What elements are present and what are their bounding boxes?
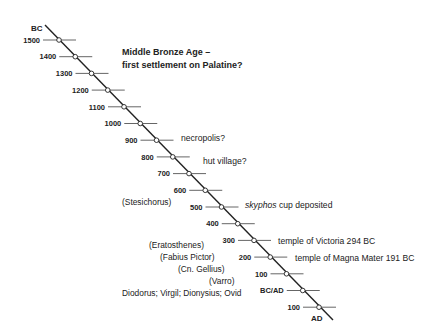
tick-label: 1300: [56, 69, 73, 78]
tick-label: 300: [222, 236, 235, 245]
tick-marker: [268, 255, 273, 260]
tick-label: 800: [141, 153, 154, 162]
tick-marker: [187, 171, 192, 176]
tick-marker: [317, 305, 322, 310]
tick-label: 900: [125, 136, 138, 145]
tick-marker: [154, 138, 159, 143]
skyphos-rest: cup deposited: [277, 200, 333, 210]
ad-label: AD: [311, 314, 323, 323]
event-temple-victoria: temple of Victoria 294 BC: [278, 236, 375, 246]
tick-label: 500: [190, 203, 203, 212]
tick-marker: [122, 105, 127, 110]
timeline-diagram: BC AD 1500140013001200110010009008007006…: [0, 0, 438, 335]
event-skyphos: skyphos cup deposited: [245, 200, 333, 210]
tick-marker: [235, 221, 240, 226]
tick-marker: [252, 238, 257, 243]
tick-marker: [203, 188, 208, 193]
tick-label: 700: [157, 169, 170, 178]
tick-marker: [57, 38, 62, 43]
tick-marker: [138, 121, 143, 126]
tick-label: 1100: [89, 103, 105, 112]
skyphos-italic: skyphos: [245, 200, 277, 210]
tick-label: 1500: [23, 36, 40, 45]
source-stesichorus: (Stesichorus): [122, 197, 172, 207]
tick-marker: [105, 88, 110, 93]
event-bronze-age-line1: Middle Bronze Age –: [122, 47, 210, 57]
source-fabius-pictor: (Fabius Pictor): [160, 252, 215, 262]
tick-marker: [219, 205, 224, 210]
tick-label: 1000: [105, 119, 122, 128]
bc-label: BC: [31, 24, 43, 33]
tick-label: 1400: [40, 52, 57, 61]
tick-marker: [300, 288, 305, 293]
event-hut-village: hut village?: [203, 156, 247, 166]
tick-label: 200: [239, 253, 252, 262]
event-temple-magna-mater: temple of Magna Mater 191 BC: [295, 253, 414, 263]
source-varro: (Varro): [209, 276, 235, 286]
tick-label: 100: [255, 270, 268, 279]
tick-marker: [284, 272, 289, 277]
tick-marker: [73, 54, 78, 59]
source-cn-gellius: (Cn. Gellius): [178, 264, 225, 274]
tick-marker: [89, 71, 94, 76]
tick-marker: [170, 155, 175, 160]
event-necropolis: necropolis?: [181, 133, 225, 143]
tick-label: BC/AD: [260, 286, 284, 295]
tick-label: 100: [287, 303, 300, 312]
event-bronze-age-line2: first settlement on Palatine?: [122, 60, 243, 70]
tick-label: 400: [206, 219, 219, 228]
tick-label: 1200: [72, 86, 89, 95]
tick-label: 600: [174, 186, 187, 195]
source-eratosthenes: (Eratosthenes): [149, 240, 204, 250]
source-later-authors: Diodorus; Virgil; Dionysius; Ovid: [122, 288, 242, 298]
